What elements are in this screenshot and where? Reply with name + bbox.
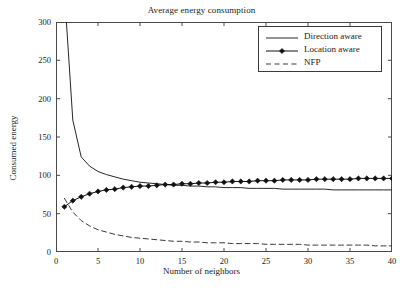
legend-sample-3 — [264, 56, 300, 68]
y-tick-label: 200 — [38, 94, 51, 104]
legend-item: Direction aware — [259, 29, 381, 42]
x-axis-label: Number of neighbors — [0, 266, 403, 276]
y-tick-label: 100 — [38, 170, 51, 180]
x-tick-label: 5 — [96, 256, 100, 266]
chart-figure: Average energy consumption 0510152025303… — [0, 0, 403, 296]
y-tick-label: 150 — [38, 132, 51, 142]
x-tick-label: 30 — [304, 256, 313, 266]
y-axis-label: Consumed energy — [8, 58, 18, 238]
y-tick-label: 250 — [38, 55, 51, 65]
x-tick-label: 40 — [388, 256, 397, 266]
chart-legend: Direction awareLocation awareNFP — [258, 26, 382, 72]
series-line — [64, 198, 392, 246]
y-tick-label: 300 — [38, 17, 51, 27]
chart-title: Average energy consumption — [0, 5, 403, 15]
legend-label: NFP — [300, 57, 321, 67]
x-tick-label: 0 — [54, 256, 58, 266]
x-tick-label: 20 — [220, 256, 229, 266]
legend-item: NFP — [259, 55, 381, 68]
series-line — [64, 178, 392, 206]
legend-label: Location aware — [300, 44, 360, 54]
x-tick-label: 15 — [178, 256, 187, 266]
y-tick-label: 50 — [43, 209, 52, 219]
legend-label: Direction aware — [300, 31, 362, 41]
legend-item: Location aware — [259, 42, 381, 55]
legend-sample-1 — [264, 30, 300, 42]
legend-sample-2 — [264, 43, 300, 55]
x-tick-label: 10 — [136, 256, 145, 266]
x-tick-label: 25 — [262, 256, 271, 266]
y-tick-label: 0 — [47, 247, 51, 257]
x-tick-label: 35 — [346, 256, 355, 266]
